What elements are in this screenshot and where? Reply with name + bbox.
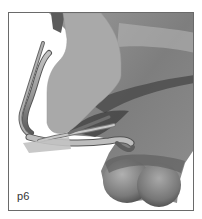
panel-label: p6 <box>17 190 30 202</box>
figure-panel: p6 <box>8 12 194 211</box>
anatomical-render <box>9 13 194 211</box>
